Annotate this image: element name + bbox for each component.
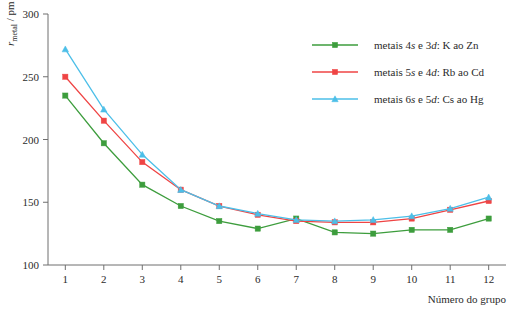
data-point <box>409 227 414 232</box>
data-point <box>486 216 491 221</box>
y-axis-title: rmetal / pm <box>4 1 19 46</box>
legend-label: metais 5s e 4d: Rb ao Cd <box>374 66 485 78</box>
data-point <box>101 141 106 146</box>
legend-item-3[interactable]: metais 6s e 5d: Cs ao Hg <box>312 93 484 105</box>
x-tick-label: 2 <box>101 273 107 285</box>
x-tick-label: 8 <box>332 273 338 285</box>
legend-swatch-marker <box>332 42 337 47</box>
data-point <box>255 226 260 231</box>
x-tick-label: 10 <box>406 273 418 285</box>
x-tick-label: 12 <box>483 273 494 285</box>
x-axis-title: Número do grupo <box>428 293 507 305</box>
line-chart: 100150200250300123456789101112rmetal / p… <box>0 0 525 325</box>
legend-item-1[interactable]: metais 4s e 3d: K ao Zn <box>312 39 479 51</box>
legend-item-2[interactable]: metais 5s e 4d: Rb ao Cd <box>312 66 485 78</box>
data-point <box>371 231 376 236</box>
data-point <box>178 203 183 208</box>
y-tick-label: 200 <box>23 134 40 146</box>
x-tick-label: 4 <box>178 273 184 285</box>
x-tick-label: 5 <box>217 273 223 285</box>
x-tick-label: 9 <box>370 273 376 285</box>
y-axis-title-text: rmetal / pm <box>4 1 19 46</box>
legend-swatch-marker <box>332 69 337 74</box>
y-tick-label: 100 <box>23 259 40 271</box>
data-point <box>485 194 491 200</box>
x-tick-label: 6 <box>255 273 261 285</box>
data-point <box>101 118 106 123</box>
y-tick-label: 150 <box>23 196 40 208</box>
data-point <box>140 182 145 187</box>
y-tick-label: 300 <box>23 8 40 20</box>
legend-label: metais 4s e 3d: K ao Zn <box>374 39 479 51</box>
data-point <box>140 159 145 164</box>
legend-label: metais 6s e 5d: Cs ao Hg <box>374 93 484 105</box>
data-point <box>448 227 453 232</box>
x-tick-label: 7 <box>293 273 299 285</box>
x-tick-label: 11 <box>445 273 456 285</box>
data-point <box>332 230 337 235</box>
x-tick-label: 1 <box>63 273 69 285</box>
chart-canvas: 100150200250300123456789101112rmetal / p… <box>0 0 525 325</box>
data-point <box>217 218 222 223</box>
y-tick-label: 250 <box>23 71 40 83</box>
x-tick-label: 3 <box>140 273 146 285</box>
data-point <box>63 74 68 79</box>
data-point <box>62 46 68 52</box>
data-point <box>63 93 68 98</box>
